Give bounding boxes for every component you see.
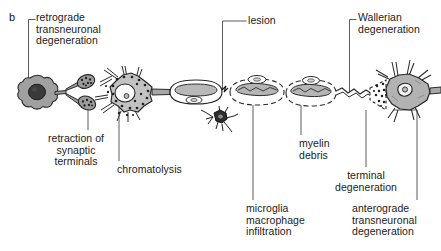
wallerian-distal-axon (336, 88, 372, 98)
label-wallerian-degeneration: Wallerian degeneration (358, 12, 420, 35)
anterograde-axon (430, 87, 441, 94)
nucleolus (124, 94, 129, 99)
degenerating-terminal (370, 80, 387, 110)
label-myelin-debris: myelin debris (299, 138, 330, 161)
leader-retrograde (29, 20, 36, 79)
wallerian-wavy-axon-2 (336, 92, 372, 98)
label-retraction-of-synaptic-terminals: retraction of synaptic terminals (28, 133, 124, 168)
leader-lesion (223, 21, 247, 89)
anterograde-neuron (376, 60, 441, 122)
myelin-inner-axon (175, 84, 217, 96)
label-microglia-macrophage-infiltration: microglia macrophage infiltration (246, 203, 305, 238)
debris1-ovoid-core (253, 78, 260, 81)
label-chromatolysis: chromatolysis (117, 164, 182, 176)
label-lesion: lesion (248, 15, 276, 27)
leader-wallerian (350, 20, 357, 93)
schwann-nucleolus (191, 98, 197, 101)
presynaptic-terminal-upper (75, 72, 97, 91)
retrograde-cell-body (18, 75, 58, 109)
pyknotic-nucleus (29, 84, 46, 100)
nucleus (115, 84, 135, 102)
bouton-lower (76, 93, 98, 112)
microglia-nucleus (218, 114, 223, 118)
debris2-axon-remnant (291, 84, 331, 96)
myelin-segment-debris-2 (286, 77, 336, 107)
branch-lower (66, 94, 80, 106)
retrograde-axon-branches (55, 81, 80, 105)
label-retrograde-transneuronal-degeneration: retrograde transneuronal degeneration (36, 12, 101, 47)
label-anterograde-transneuronal-degeneration: anterograde transneuronal degeneration (352, 203, 417, 238)
axon-trunk (55, 91, 66, 95)
bouton-upper (75, 72, 97, 91)
myelin-segment-debris-1 (230, 76, 284, 106)
presynaptic-terminal-lower (76, 93, 98, 112)
label-terminal-degeneration: terminal degeneration (292, 170, 440, 193)
proximal-axon (152, 89, 170, 95)
microglial-cell (201, 106, 238, 132)
panel-letter: b (9, 11, 15, 23)
anterograde-nucleolus (402, 87, 407, 92)
figure-panel-b: b retrograde transneuronal degeneration … (0, 0, 441, 251)
myelin-segment-intact (170, 80, 222, 104)
debris1-axon-remnant (236, 83, 278, 95)
chromatolytic-neuron (95, 66, 152, 122)
nucleus-highlight (32, 87, 37, 91)
dendrite-stubs-lower (117, 111, 140, 122)
debris2-ovoid-core (308, 79, 315, 82)
